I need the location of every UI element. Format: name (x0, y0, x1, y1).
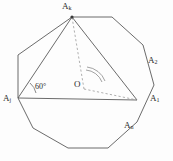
dashed-radius-to-right-vertex (84, 89, 137, 100)
central-angle-arc-inner (86, 70, 102, 82)
label-vertex-aj: Aj (3, 94, 11, 103)
label-an-subscript: n (131, 124, 134, 130)
figure-canvas (0, 0, 173, 161)
label-vertex-a1: A1 (150, 94, 160, 103)
label-a2-subscript: 2 (155, 59, 158, 65)
geometry-figure: Ak A2 A1 An Aj O 60° (0, 0, 173, 161)
top-vertex-dot (70, 15, 73, 18)
label-vertex-a2: A2 (148, 56, 158, 65)
label-a1-subscript: 1 (157, 97, 160, 103)
label-aj-subscript: j (10, 97, 12, 103)
label-ak-subscript: k (69, 5, 72, 11)
label-vertex-an: An (124, 121, 134, 130)
label-center-o: O (74, 80, 81, 89)
label-vertex-ak: Ak (62, 2, 72, 11)
label-angle-60: 60° (35, 83, 46, 91)
